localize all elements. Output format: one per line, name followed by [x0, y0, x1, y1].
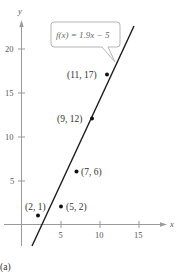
label-9-12: (9, 12) [57, 114, 82, 125]
y-tick-15: 15 [5, 88, 14, 98]
point-7-6 [75, 170, 79, 174]
x-tick-5: 5 [59, 230, 63, 240]
point-11-17 [105, 73, 109, 77]
regression-line [32, 26, 134, 246]
y-tick-5: 5 [10, 176, 14, 186]
label-7-6: (7, 6) [81, 167, 102, 178]
y-tick-10: 10 [5, 132, 14, 142]
point-labels: (2, 1) (5, 2) (7, 6) (9, 12) (11, 17) [25, 70, 102, 213]
point-5-2 [59, 205, 63, 209]
label-11-17: (11, 17) [67, 70, 97, 81]
x-tick-10: 10 [95, 230, 104, 240]
x-tick-15: 15 [134, 230, 143, 240]
x-axis-label: x [169, 219, 174, 229]
label-2-1: (2, 1) [25, 202, 46, 213]
point-9-12 [90, 117, 94, 121]
data-points [36, 73, 109, 218]
equation-label: f(x) = 1.9x − 5 [56, 30, 110, 40]
x-ticks: 5 10 15 [59, 221, 143, 240]
x-axis-arrow-icon [160, 222, 167, 226]
equation-callout: f(x) = 1.9x − 5 [51, 22, 120, 62]
chart-svg: y x 5 10 15 5 10 15 20 f(x) = 1 [0, 0, 179, 278]
label-5-2: (5, 2) [66, 202, 87, 213]
chart-figure: y x 5 10 15 5 10 15 20 f(x) = 1 [0, 0, 179, 278]
y-axis-arrow-icon [19, 20, 23, 27]
point-2-1 [36, 214, 40, 218]
y-tick-20: 20 [5, 44, 14, 54]
panel-label: (a) [0, 262, 11, 273]
y-axis-label: y [17, 6, 22, 16]
